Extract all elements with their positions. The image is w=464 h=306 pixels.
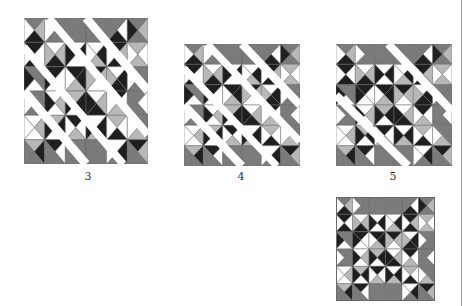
quilt-block-step-5 xyxy=(336,44,452,166)
quilt-block-finished xyxy=(336,197,435,301)
step-label-5: 5 xyxy=(383,170,403,183)
quilt-block-step-3 xyxy=(24,18,148,164)
quilt-block-step-4 xyxy=(184,44,300,166)
step-label-4: 4 xyxy=(231,170,251,183)
page-edge-rule xyxy=(461,0,462,306)
step-label-3: 3 xyxy=(78,170,98,183)
